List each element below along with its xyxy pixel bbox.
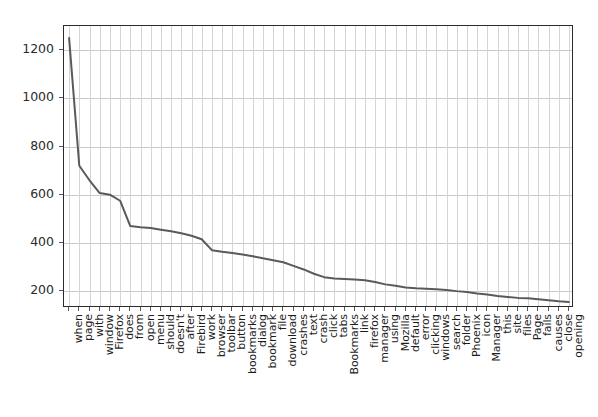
x-tick-mark xyxy=(517,307,518,311)
x-tick-mark xyxy=(78,307,79,311)
x-tick-mark xyxy=(527,307,528,311)
x-tick-mark xyxy=(435,307,436,311)
x-tick-mark xyxy=(262,307,263,311)
x-tick-mark xyxy=(486,307,487,311)
x-tick-mark xyxy=(405,307,406,311)
x-tick-mark xyxy=(323,307,324,311)
line-series xyxy=(64,26,573,307)
y-tick-label: 400 xyxy=(0,234,54,249)
x-tick-mark xyxy=(344,307,345,311)
x-tick-mark xyxy=(313,307,314,311)
x-tick-mark xyxy=(99,307,100,311)
x-tick-mark xyxy=(68,307,69,311)
x-tick-mark xyxy=(333,307,334,311)
x-tick-mark xyxy=(568,307,569,311)
x-tick-mark xyxy=(364,307,365,311)
x-tick-mark xyxy=(170,307,171,311)
x-tick-mark xyxy=(507,307,508,311)
x-tick-mark xyxy=(140,307,141,311)
x-tick-mark xyxy=(374,307,375,311)
x-tick-mark xyxy=(211,307,212,311)
x-tick-mark xyxy=(89,307,90,311)
plot-area xyxy=(63,25,573,307)
x-tick-mark xyxy=(160,307,161,311)
y-tick-label: 800 xyxy=(0,138,54,153)
x-tick-mark xyxy=(201,307,202,311)
x-tick-mark xyxy=(476,307,477,311)
x-tick-mark xyxy=(456,307,457,311)
y-tick-label: 600 xyxy=(0,186,54,201)
x-tick-mark xyxy=(272,307,273,311)
x-tick-mark xyxy=(282,307,283,311)
x-tick-mark xyxy=(497,307,498,311)
x-tick-label: opening xyxy=(572,314,585,358)
x-tick-mark xyxy=(221,307,222,311)
x-tick-mark xyxy=(354,307,355,311)
x-tick-mark xyxy=(191,307,192,311)
x-tick-mark xyxy=(231,307,232,311)
x-tick-mark xyxy=(558,307,559,311)
x-tick-mark xyxy=(384,307,385,311)
y-tick-label: 200 xyxy=(0,282,54,297)
x-tick-mark xyxy=(242,307,243,311)
x-tick-mark xyxy=(129,307,130,311)
x-tick-mark xyxy=(548,307,549,311)
y-tick-label: 1200 xyxy=(0,41,54,56)
x-tick-mark xyxy=(395,307,396,311)
x-tick-mark xyxy=(537,307,538,311)
x-tick-mark xyxy=(415,307,416,311)
x-tick-mark xyxy=(303,307,304,311)
x-tick-mark xyxy=(180,307,181,311)
x-tick-mark xyxy=(109,307,110,311)
x-tick-mark xyxy=(446,307,447,311)
x-tick-mark xyxy=(425,307,426,311)
y-tick-label: 1000 xyxy=(0,89,54,104)
x-tick-mark xyxy=(150,307,151,311)
x-tick-mark xyxy=(293,307,294,311)
x-tick-mark xyxy=(466,307,467,311)
chart-figure: 20040060080010001200 whenpagewithwindowF… xyxy=(0,0,598,417)
x-tick-mark xyxy=(252,307,253,311)
x-tick-mark xyxy=(119,307,120,311)
